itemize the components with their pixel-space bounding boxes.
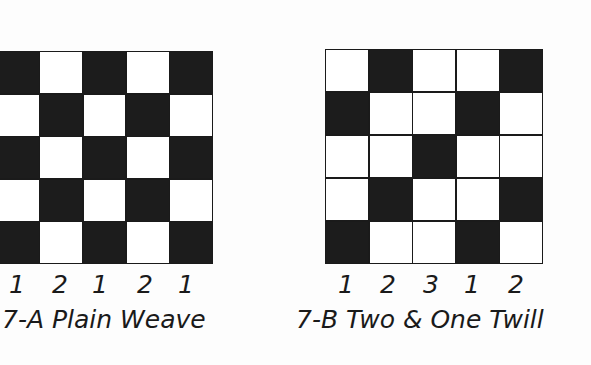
empty-cell [326, 50, 368, 91]
filled-cell [370, 50, 412, 91]
filled-cell [0, 52, 39, 93]
empty-cell [127, 222, 169, 263]
empty-cell [170, 95, 212, 136]
twill-grid [325, 49, 543, 264]
empty-cell [413, 179, 455, 220]
empty-cell [500, 222, 542, 263]
empty-cell [370, 93, 412, 134]
empty-cell [457, 50, 499, 91]
filled-cell [457, 222, 499, 263]
empty-cell [500, 136, 542, 177]
column-label: 2 [508, 270, 524, 299]
empty-cell [40, 52, 82, 93]
empty-cell [127, 52, 169, 93]
column-label: 1 [464, 270, 480, 299]
empty-cell [413, 50, 455, 91]
filled-cell [413, 136, 455, 177]
empty-cell [413, 222, 455, 263]
filled-cell [40, 180, 82, 221]
empty-cell [326, 136, 368, 177]
empty-cell [0, 180, 39, 221]
filled-cell [40, 95, 82, 136]
twill-caption: 7-B Two & One Twill [296, 305, 544, 334]
empty-cell [40, 222, 82, 263]
empty-cell [457, 179, 499, 220]
filled-cell [326, 93, 368, 134]
plain-weave-grid [0, 51, 213, 264]
filled-cell [170, 137, 212, 178]
plain-weave-caption: 7-A Plain Weave [2, 305, 206, 334]
filled-cell [457, 93, 499, 134]
empty-cell [127, 137, 169, 178]
filled-cell [0, 137, 39, 178]
empty-cell [40, 137, 82, 178]
empty-cell [370, 136, 412, 177]
empty-cell [370, 222, 412, 263]
empty-cell [84, 180, 126, 221]
filled-cell [500, 179, 542, 220]
empty-cell [84, 95, 126, 136]
filled-cell [84, 52, 126, 93]
filled-cell [0, 222, 39, 263]
empty-cell [413, 93, 455, 134]
filled-cell [170, 52, 212, 93]
column-label: 3 [423, 270, 439, 299]
filled-cell [84, 137, 126, 178]
filled-cell [127, 95, 169, 136]
empty-cell [0, 95, 39, 136]
filled-cell [326, 222, 368, 263]
empty-cell [457, 136, 499, 177]
filled-cell [170, 222, 212, 263]
twill-column-labels: 1 2 3 1 2 [0, 270, 591, 300]
filled-cell [370, 179, 412, 220]
filled-cell [500, 50, 542, 91]
empty-cell [326, 179, 368, 220]
empty-cell [500, 93, 542, 134]
column-label: 2 [380, 270, 396, 299]
filled-cell [127, 180, 169, 221]
filled-cell [84, 222, 126, 263]
empty-cell [170, 180, 212, 221]
column-label: 1 [338, 270, 354, 299]
